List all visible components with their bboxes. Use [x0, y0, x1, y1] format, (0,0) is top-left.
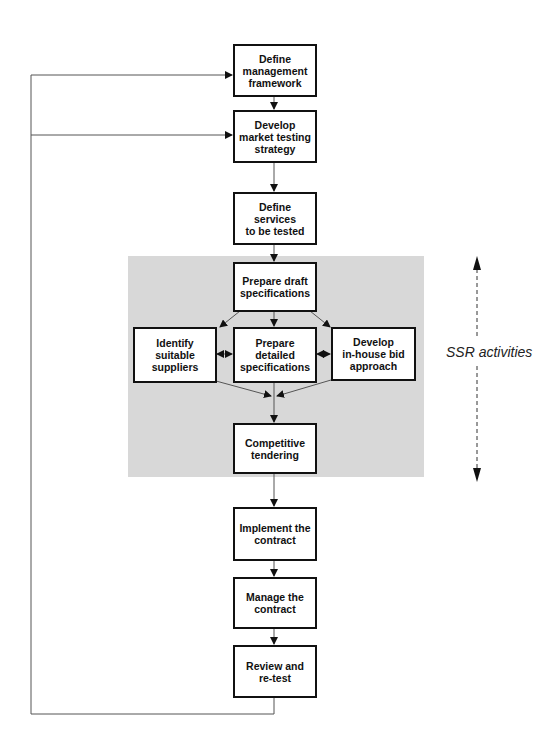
- node-develop-strategy: Develop market testing strategy: [233, 110, 317, 163]
- node-define-services: Define services to be tested: [233, 192, 317, 245]
- node-prepare-draft: Prepare draft specifications: [233, 262, 317, 312]
- node-define-framework: Define management framework: [233, 44, 317, 97]
- node-prepare-detailed: Prepare detailed specifications: [233, 327, 317, 383]
- ssr-activities-label: SSR activities: [444, 344, 534, 360]
- node-manage-contract: Manage the contract: [233, 577, 317, 629]
- node-competitive-tendering: Competitive tendering: [233, 423, 317, 474]
- node-implement-contract: Implement the contract: [233, 507, 317, 561]
- node-develop-bid: Develop in-house bid approach: [331, 327, 416, 381]
- node-review-retest: Review and re-test: [233, 645, 317, 698]
- node-identify-suppliers: Identify suitable suppliers: [133, 327, 217, 383]
